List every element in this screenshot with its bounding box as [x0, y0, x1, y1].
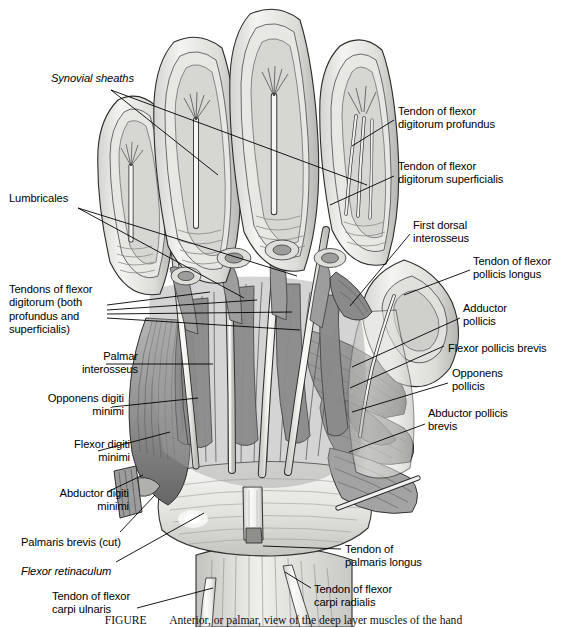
label-palmar-interosseus: Palmar interosseus — [18, 350, 138, 377]
label-flexor-pollicis-brevis: Flexor pollicis brevis — [448, 342, 547, 355]
label-tendon-palmaris-longus: Tendon of palmaris longus — [345, 543, 422, 570]
anatomy-figure: Synovial sheathsLumbricalesTendons of fl… — [0, 0, 567, 627]
label-tendon-flexor-digitorum-superficialis: Tendon of flexor digitorum superficialis — [398, 160, 503, 187]
label-tendon-flexor-pollicis-longus: Tendon of flexor pollicis longus — [473, 255, 551, 282]
label-lumbricales: Lumbricales — [9, 192, 68, 205]
label-synovial-sheaths: Synovial sheaths — [51, 72, 134, 85]
label-abductor-digiti-minimi: Abductor digiti minimi — [9, 487, 129, 514]
label-opponens-digiti-minimi: Opponens digiti minimi — [4, 392, 124, 419]
label-flexor-retinaculum: Flexor retinaculum — [21, 565, 111, 578]
label-layer: Synovial sheathsLumbricalesTendons of fl… — [0, 0, 567, 627]
label-opponens-pollicis: Opponens pollicis — [452, 367, 503, 394]
label-flexor-digiti-minimi: Flexor digiti minimi — [10, 438, 130, 465]
label-tendon-flexor-digitorum-profundus: Tendon of flexor digitorum profundus — [398, 105, 495, 132]
label-adductor-pollicis: Adductor pollicis — [463, 302, 507, 329]
label-tendon-flexor-carpi-ulnaris: Tendon of flexor carpi ulnaris — [52, 590, 130, 617]
label-abductor-pollicis-brevis: Abductor pollicis brevis — [428, 407, 508, 434]
label-palmaris-brevis-cut: Palmaris brevis (cut) — [21, 536, 121, 549]
figure-caption: FIGURE Anterior, or palmar, view of the … — [0, 614, 567, 627]
label-tendon-flexor-carpi-radialis: Tendon of flexor carpi radialis — [314, 583, 392, 610]
label-first-dorsal-interosseus: First dorsal interosseus — [413, 219, 469, 246]
label-tendons-flexor-digitorum: Tendons of flexor digitorum (both profun… — [9, 283, 93, 337]
